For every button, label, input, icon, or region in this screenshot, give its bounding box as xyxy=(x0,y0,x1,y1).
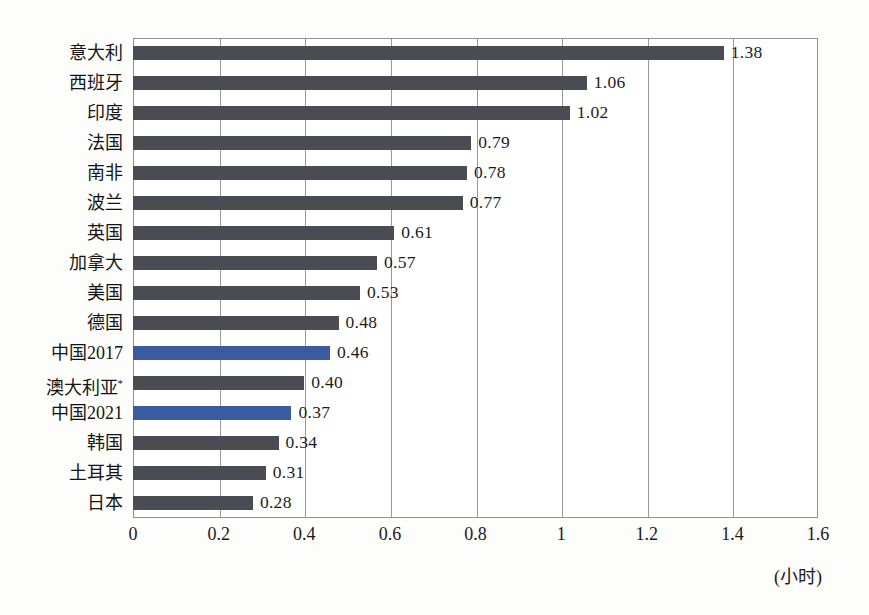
x-axis-unit-label: (小时) xyxy=(774,562,822,588)
bar-value-label: 0.34 xyxy=(286,432,318,453)
category-label: 澳大利亚* xyxy=(46,368,124,398)
bar[interactable] xyxy=(133,256,377,270)
category-label: 印度 xyxy=(87,98,123,128)
category-label: 法国 xyxy=(87,128,123,158)
bar-value-label: 0.46 xyxy=(337,342,369,363)
category-label: 中国2021 xyxy=(51,398,123,428)
bar-value-label: 0.28 xyxy=(260,492,292,513)
category-axis: 意大利西班牙印度法国南非波兰英国加拿大美国德国中国2017澳大利亚*中国2021… xyxy=(0,38,128,518)
bar-value-label: 0.48 xyxy=(346,312,378,333)
bar-row: 0.61 xyxy=(133,218,818,248)
category-label: 意大利 xyxy=(69,38,123,68)
bar-row: 1.38 xyxy=(133,38,818,68)
bar[interactable] xyxy=(133,376,304,390)
bar-value-label: 1.02 xyxy=(577,102,609,123)
bars-layer: 1.381.061.020.790.780.770.610.570.530.48… xyxy=(133,38,818,518)
bar[interactable] xyxy=(133,196,463,210)
x-tick-label: 1.6 xyxy=(807,524,830,545)
bar-value-label: 0.31 xyxy=(273,462,305,483)
bar[interactable] xyxy=(133,136,471,150)
bar-value-label: 0.79 xyxy=(478,132,510,153)
x-tick-label: 0.4 xyxy=(293,524,316,545)
bar-row: 0.53 xyxy=(133,278,818,308)
x-tick-label: 1.2 xyxy=(636,524,659,545)
category-label: 日本 xyxy=(87,488,123,518)
bar[interactable] xyxy=(133,316,339,330)
bar[interactable] xyxy=(133,466,266,480)
bar-row: 0.46 xyxy=(133,338,818,368)
bar-value-label: 0.53 xyxy=(367,282,399,303)
bar-value-label: 1.06 xyxy=(594,72,626,93)
x-tick-label: 0.6 xyxy=(379,524,402,545)
bar-row: 0.57 xyxy=(133,248,818,278)
bar-row: 0.40 xyxy=(133,368,818,398)
bar[interactable] xyxy=(133,406,291,420)
bar[interactable] xyxy=(133,286,360,300)
bar[interactable] xyxy=(133,46,724,60)
x-tick-label: 1.4 xyxy=(721,524,744,545)
bar[interactable] xyxy=(133,76,587,90)
chart-container: 1.381.061.020.790.780.770.610.570.530.48… xyxy=(0,0,869,615)
category-label: 韩国 xyxy=(87,428,123,458)
x-tick-label: 0.2 xyxy=(207,524,230,545)
category-label: 中国2017 xyxy=(51,338,123,368)
bar-row: 0.37 xyxy=(133,398,818,428)
bar[interactable] xyxy=(133,166,467,180)
bar-row: 0.77 xyxy=(133,188,818,218)
bar[interactable] xyxy=(133,496,253,510)
category-label: 南非 xyxy=(87,158,123,188)
category-label: 加拿大 xyxy=(69,248,123,278)
bar-value-label: 0.77 xyxy=(470,192,502,213)
category-label: 美国 xyxy=(87,278,123,308)
x-tick-label: 0 xyxy=(129,524,138,545)
category-label: 英国 xyxy=(87,218,123,248)
category-label: 西班牙 xyxy=(69,68,123,98)
bar[interactable] xyxy=(133,226,394,240)
bar-row: 0.48 xyxy=(133,308,818,338)
bar-row: 0.79 xyxy=(133,128,818,158)
x-tick-label: 1 xyxy=(557,524,566,545)
bar[interactable] xyxy=(133,106,570,120)
bar[interactable] xyxy=(133,436,279,450)
category-label: 波兰 xyxy=(87,188,123,218)
bar-value-label: 1.38 xyxy=(731,42,763,63)
bar-row: 0.34 xyxy=(133,428,818,458)
bar-row: 0.78 xyxy=(133,158,818,188)
bar-row: 1.06 xyxy=(133,68,818,98)
x-axis: 00.20.40.60.811.21.41.6 xyxy=(133,524,818,554)
bar-value-label: 0.57 xyxy=(384,252,416,273)
bar-value-label: 0.61 xyxy=(401,222,433,243)
bar[interactable] xyxy=(133,346,330,360)
category-label: 土耳其 xyxy=(69,458,123,488)
category-label: 德国 xyxy=(87,308,123,338)
bar-row: 0.31 xyxy=(133,458,818,488)
bar-value-label: 0.40 xyxy=(311,372,343,393)
bar-row: 1.02 xyxy=(133,98,818,128)
x-tick-label: 0.8 xyxy=(464,524,487,545)
bar-value-label: 0.37 xyxy=(298,402,330,423)
bar-row: 0.28 xyxy=(133,488,818,518)
bar-value-label: 0.78 xyxy=(474,162,506,183)
